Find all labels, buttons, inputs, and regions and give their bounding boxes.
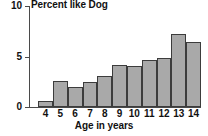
bar-age-13 bbox=[171, 34, 186, 107]
y-axis-tick-label: 0 bbox=[16, 101, 22, 112]
plot-area bbox=[30, 6, 201, 107]
bar-age-5 bbox=[53, 81, 68, 107]
y-axis-tick-label: 10 bbox=[11, 0, 22, 11]
bar-age-4 bbox=[38, 101, 53, 107]
bar-age-7 bbox=[83, 82, 98, 107]
y-axis-tick-label: 5 bbox=[16, 51, 22, 62]
bar-age-6 bbox=[68, 87, 83, 107]
bar-age-8 bbox=[97, 76, 112, 107]
histogram-figure: Percent like Dog 1050 4567891011121314 A… bbox=[0, 0, 208, 136]
y-axis-tick bbox=[25, 107, 30, 108]
x-axis-title: Age in years bbox=[0, 120, 208, 131]
bar-age-9 bbox=[112, 65, 127, 107]
bar-age-11 bbox=[142, 60, 157, 107]
bar-age-12 bbox=[157, 58, 172, 107]
bar-age-10 bbox=[127, 66, 142, 107]
bar-age-14 bbox=[186, 42, 201, 107]
x-axis-tick-label-14: 14 bbox=[185, 108, 203, 119]
